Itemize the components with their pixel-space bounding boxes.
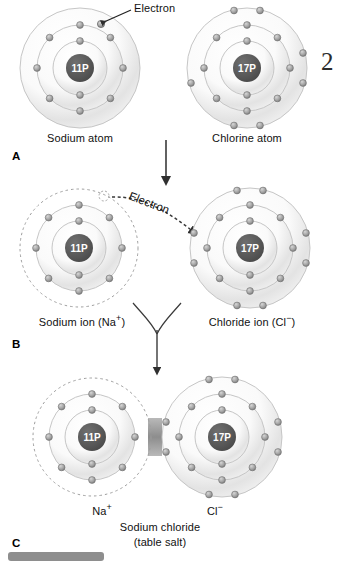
compound-caption-line2: (table salt): [134, 536, 187, 548]
ionic-bonding-diagram: 11P 17P: [0, 0, 343, 563]
svg-text:11P: 11P: [70, 243, 88, 254]
svg-text:17P: 17P: [213, 432, 231, 443]
nucleus-label-11p: 11P: [71, 63, 89, 74]
na-label-base: Na: [92, 505, 106, 517]
panel-letter-b: B: [12, 338, 20, 350]
sodium-atom-a: 11P: [20, 8, 140, 128]
nucleus-label-17p: 17P: [238, 63, 256, 74]
chloride-ion-label-base: Chloride ion (Cl: [209, 316, 286, 328]
electron-transfer-label: Electron: [127, 190, 171, 216]
panel-letter-a: A: [12, 150, 20, 162]
na-plus-label: Na+: [92, 502, 112, 517]
chloride-ion-c: 17P: [162, 376, 282, 498]
svg-text:11P: 11P: [83, 432, 101, 443]
cl-label-base: Cl: [207, 505, 218, 517]
cl-minus-label: Cl−: [207, 502, 223, 517]
ionic-bond-region: [148, 418, 162, 456]
figure-number: 2: [321, 48, 334, 76]
compound-caption-line1: Sodium chloride: [120, 521, 200, 533]
chloride-ion-label-tail: ): [292, 316, 296, 328]
sodium-ion-b: 11P: [20, 189, 138, 307]
sodium-ion-label-tail: ): [121, 316, 125, 328]
chloride-ion-label: Chloride ion (Cl−): [209, 313, 296, 328]
figure-canvas: 11P 17P: [0, 0, 343, 563]
vacated-electron-slot: [99, 191, 109, 201]
chloride-ion-b: 17P: [190, 187, 310, 309]
panel-letter-c: C: [12, 537, 20, 549]
na-charge: +: [106, 502, 111, 512]
chlorine-atom-a: 17P: [187, 7, 307, 129]
svg-text:17P: 17P: [241, 243, 259, 254]
bottom-progress-bar[interactable]: [8, 552, 104, 561]
electron-label-a: Electron: [134, 2, 175, 14]
sodium-ion-label-base: Sodium ion (Na: [39, 316, 116, 328]
chlorine-atom-label: Chlorine atom: [212, 132, 282, 144]
sodium-ion-c: 11P: [33, 378, 151, 496]
cl-charge: −: [218, 502, 223, 512]
arrow-b-to-c: [133, 303, 181, 371]
sodium-atom-label: Sodium atom: [47, 132, 113, 144]
sodium-ion-label: Sodium ion (Na+): [39, 313, 125, 328]
valence-electron-sodium: [97, 20, 104, 27]
